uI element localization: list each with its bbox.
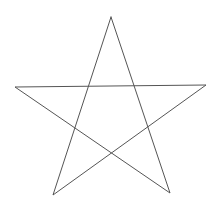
drawing-canvas — [0, 0, 220, 211]
pentagram-star-icon — [0, 0, 220, 211]
star-outline — [15, 17, 206, 195]
